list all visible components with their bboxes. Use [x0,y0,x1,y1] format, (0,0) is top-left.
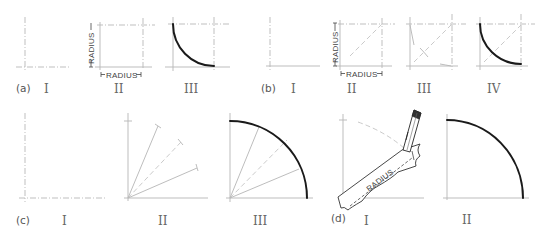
panel-a-step-3 [165,17,230,71]
swing-arc-dashed [358,122,405,149]
step-numeral: I [44,82,49,96]
diagonal-line [350,24,382,56]
panel-c-step-2 [124,113,208,201]
panel-b-step-2: RADIUS RADIUS [331,18,395,79]
sketching-arcs-diagram: RADIUS RADIUS (a) I II III [0,0,547,237]
panel-d-step-2 [443,114,529,200]
step-numeral: I [62,214,67,228]
step-numeral: II [462,213,472,227]
radius-mark [196,164,198,171]
quarter-arc [173,24,214,66]
panel-d: RADIUS (d) I II [331,110,529,228]
radius-label-vertical: RADIUS [87,33,96,64]
panel-b-step-1 [266,17,320,70]
panel-c: (c) I II III [16,113,313,228]
panel-c-label: (c) [16,214,30,226]
radial-line [230,140,287,198]
radius-mark [155,124,161,128]
panel-a-label: (a) [16,82,31,94]
panel-b-label: (b) [261,82,276,94]
panel-c-step-1 [19,113,106,202]
step-numeral: II [158,214,168,228]
quarter-arc [480,24,521,64]
quarter-circle-arc [447,120,523,198]
radial-line [128,142,181,198]
step-numeral: I [291,82,296,96]
step-numeral: III [417,82,431,96]
radius-label-horizontal: RADIUS [346,70,377,79]
panel-a: RADIUS RADIUS (a) I II III [16,17,230,96]
radius-label-vertical: RADIUS [331,32,340,63]
panel-c-step-3 [226,113,313,202]
step-numeral: III [253,214,267,228]
step-numeral: III [184,82,198,96]
panel-b-step-4 [476,14,535,70]
panel-d-label: (d) [331,212,346,224]
step-numeral: I [364,214,369,228]
panel-b: RADIUS RADIUS (b) [261,14,535,96]
radius-label-horizontal: RADIUS [106,71,137,80]
panel-b-step-3 [406,14,466,70]
diagonal-line [414,24,452,62]
panel-a-step-2: RADIUS RADIUS [87,18,155,80]
step-numeral: II [347,82,357,96]
step-numeral: IV [487,82,501,96]
panel-d-step-1: RADIUS [338,110,424,210]
diagonal-line [484,25,521,62]
step-numeral: II [114,82,124,96]
trial-arc-stroke [410,25,414,45]
panel-a-step-1 [16,17,71,70]
